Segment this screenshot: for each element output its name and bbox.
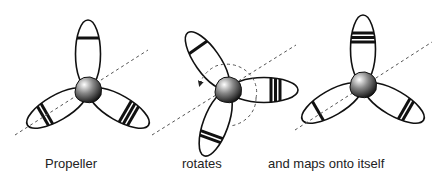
caption-propeller: Propeller (45, 156, 97, 171)
hub (75, 77, 102, 103)
propeller-symmetry-diagram (0, 0, 445, 180)
propeller-mapped (295, 15, 432, 131)
hub (215, 77, 242, 103)
hub (350, 72, 377, 98)
propeller-rotating (152, 25, 298, 160)
caption-maps-onto-itself: and maps onto itself (268, 156, 384, 171)
caption-rotates: rotates (182, 156, 222, 171)
propeller-original (15, 20, 155, 136)
